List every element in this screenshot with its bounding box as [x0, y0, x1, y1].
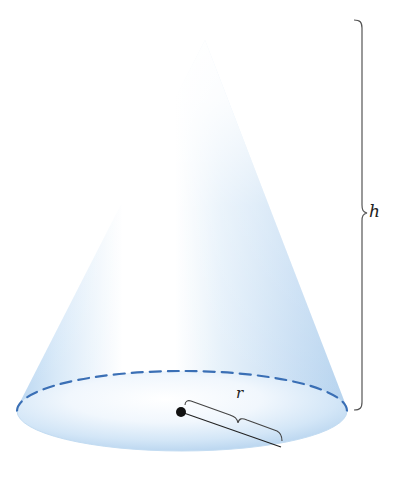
radius-label: r [236, 386, 243, 401]
cone-figure [0, 0, 412, 479]
cone-surface [0, 30, 412, 420]
height-brace [354, 20, 367, 410]
cone-diagram: h r [0, 0, 412, 479]
height-label: h [369, 203, 380, 220]
center-point [176, 407, 186, 417]
